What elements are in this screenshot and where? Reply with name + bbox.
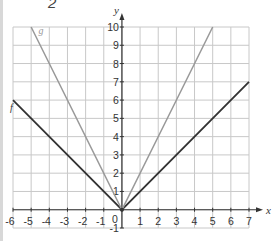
y-tick-label: 3 — [113, 149, 119, 161]
y-tick-label: 1 — [113, 185, 119, 197]
y-tick-label: 6 — [113, 94, 119, 106]
x-tick-label: 6 — [228, 215, 234, 227]
x-tick-label: 2 — [155, 215, 161, 227]
y-tick-label: 2 — [113, 167, 119, 179]
x-tick-label: 5 — [210, 215, 216, 227]
x-axis-arrow-icon — [256, 207, 263, 212]
y-axis-arrow-icon — [119, 13, 124, 20]
x-tick-label: -6 — [5, 215, 14, 227]
y-tick-label: 4 — [113, 131, 119, 143]
y-tick-label: 8 — [113, 58, 119, 70]
x-axis-label: x — [265, 204, 271, 216]
y-tick-label: 7 — [113, 76, 119, 88]
y-tick-label: 9 — [113, 39, 119, 51]
x-tick-label: -1 — [96, 215, 105, 227]
graph: -6-5-4-3-2-101234567-112345678910xyfg — [0, 0, 279, 241]
x-tick-label: 3 — [173, 215, 179, 227]
x-tick-label: 1 — [137, 215, 143, 227]
x-tick-label: -4 — [42, 215, 51, 227]
y-tick-label: 5 — [113, 112, 119, 124]
y-axis-label: y — [113, 4, 119, 16]
origin-point — [120, 208, 124, 212]
x-tick-label: 4 — [192, 215, 198, 227]
x-tick-label: -2 — [78, 215, 87, 227]
y-tick-label: -1 — [110, 222, 119, 234]
y-tick-label: 10 — [107, 21, 119, 33]
x-tick-label: 7 — [246, 215, 252, 227]
x-tick-label: -3 — [60, 215, 69, 227]
x-tick-label: -5 — [23, 215, 32, 227]
label-g: g — [38, 25, 43, 36]
